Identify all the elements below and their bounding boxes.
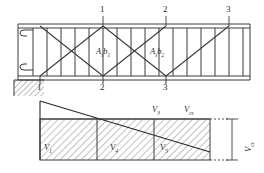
asb2-sub-2: 2 <box>162 52 165 58</box>
bottom-station-mark-2: 2 <box>100 83 105 92</box>
top-station-mark-1: 1 <box>100 5 105 14</box>
bent-up-bar <box>166 26 229 76</box>
figure-canvas: 1 2 3 1 2 3 Asb1 Asb2 V3 Vcs V1 V4 V5 Vc… <box>0 0 264 173</box>
vcs-sub: cs <box>189 110 193 116</box>
v1-sub: 1 <box>49 148 52 154</box>
v3-sub: 3 <box>157 110 160 116</box>
dimension-label-vcs: Vcs <box>244 142 255 152</box>
top-station-mark-3: 3 <box>226 5 231 14</box>
asb1-sub-1: 1 <box>108 52 111 58</box>
shear-area-hatch <box>40 119 210 160</box>
dim-vcs-V: V <box>243 147 253 152</box>
top-station-mark-2: 2 <box>163 5 168 14</box>
bottom-bar-hook <box>20 64 33 70</box>
shear-region-label-v5: V5 <box>160 143 168 154</box>
shear-label-vcs: Vcs <box>184 105 194 116</box>
shear-region-label-v4: V4 <box>110 143 118 154</box>
bottom-station-mark-3: 3 <box>163 83 168 92</box>
shear-force-diagram <box>40 101 238 160</box>
bottom-station-mark-1: 1 <box>37 83 42 92</box>
dimension-group <box>210 119 238 160</box>
shear-region-label-v1: V1 <box>44 143 52 154</box>
dim-vcs-sub: cs <box>249 142 255 146</box>
bent-bar-area-label-1: Asb1 <box>96 47 110 58</box>
v4-sub: 4 <box>115 148 118 154</box>
v5-sub: 5 <box>165 148 168 154</box>
bent-bar-area-label-2: Asb2 <box>150 47 164 58</box>
top-bar-hook <box>20 30 33 36</box>
stirrup-group <box>33 28 243 76</box>
beam-elevation <box>18 16 250 84</box>
shear-label-v3: V3 <box>152 105 160 116</box>
